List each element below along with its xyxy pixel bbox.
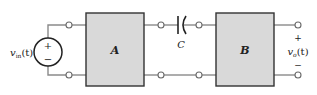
terminal-icon [196,22,202,28]
source-top-wire [48,25,66,38]
output-plus: + [294,33,302,43]
terminal-icon [295,22,301,28]
terminal-icon [295,72,301,78]
terminal-icon [158,72,164,78]
output-voltage: + vo(t) − [287,33,308,70]
block-b-label: B [239,44,249,57]
output-label-arg: (t) [297,46,309,57]
terminal-icon [66,22,72,28]
source-label: vin(t) [10,47,33,59]
capacitor-label: C [177,39,185,50]
source-bottom-wire [48,66,66,75]
source-label-arg: (t) [21,47,33,58]
block-a: A [86,13,144,86]
terminal-icon [66,72,72,78]
output-minus: − [294,60,302,70]
terminal-icon [196,72,202,78]
source-minus: − [44,54,52,65]
terminal-icon [158,22,164,28]
source-plus: + [44,40,52,51]
capacitor: C [177,16,186,50]
circuit-diagram: + − vin(t) A C B + vo(t) − [0,0,317,95]
block-b: B [216,13,274,86]
block-a-label: A [110,44,120,57]
voltage-source: + − vin(t) [10,38,62,66]
output-label: vo(t) [287,46,308,58]
